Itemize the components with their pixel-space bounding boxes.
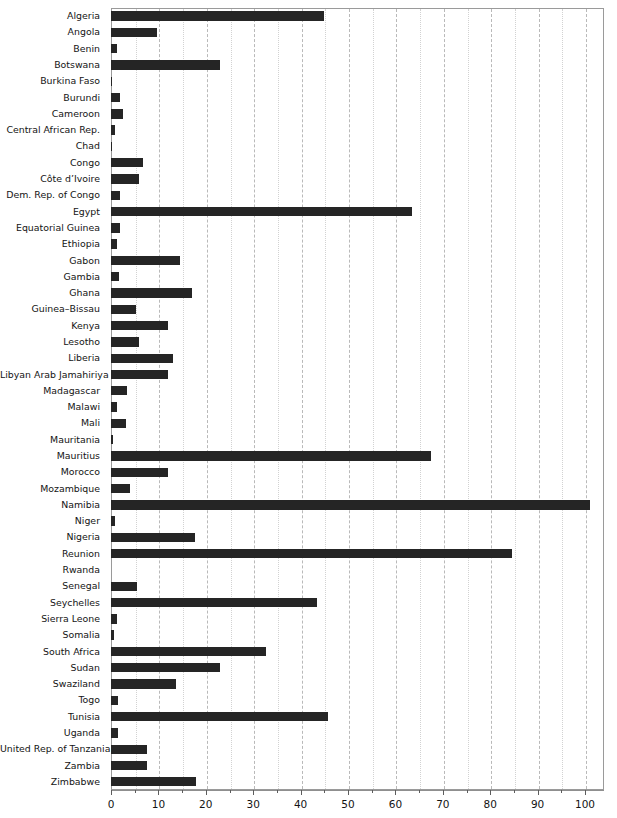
category-label: Seychelles — [0, 598, 105, 608]
bar — [111, 60, 220, 69]
category-label: Mozambique — [0, 484, 105, 494]
bar — [111, 419, 126, 428]
bar — [111, 630, 114, 639]
bar — [111, 191, 120, 200]
x-axis-line — [111, 790, 604, 791]
bar — [111, 77, 112, 86]
x-tick-label: 60 — [389, 798, 402, 810]
category-label: South Africa — [0, 647, 105, 657]
category-label: Gabon — [0, 256, 105, 266]
bar — [111, 28, 157, 37]
bar — [111, 500, 590, 509]
bar — [111, 647, 266, 656]
category-label: Botswana — [0, 60, 105, 70]
x-tick-minor — [277, 790, 278, 793]
category-label: Somalia — [0, 630, 105, 640]
x-tick-label: 20 — [199, 798, 212, 810]
x-tick-label: 100 — [575, 798, 595, 810]
category-label: Madagascar — [0, 386, 105, 396]
x-tick-major — [538, 790, 539, 795]
category-label: Senegal — [0, 581, 105, 591]
x-tick-major — [301, 790, 302, 795]
category-label: Guinea–Bissau — [0, 304, 105, 314]
x-tick-label: 0 — [108, 798, 115, 810]
category-label: Kenya — [0, 321, 105, 331]
x-tick-major — [490, 790, 491, 795]
category-label: Côte d’Ivoire — [0, 174, 105, 184]
bar — [111, 761, 147, 770]
category-label: Gambia — [0, 272, 105, 282]
category-label: Ghana — [0, 288, 105, 298]
bar — [111, 402, 117, 411]
category-label: Mauritania — [0, 435, 105, 445]
bar — [111, 239, 117, 248]
x-tick-minor — [324, 790, 325, 793]
category-label: Sierra Leone — [0, 614, 105, 624]
bar — [111, 777, 196, 786]
category-label: Central African Rep. — [0, 125, 105, 135]
category-label: Namibia — [0, 500, 105, 510]
x-tick-major — [206, 790, 207, 795]
bar — [111, 696, 118, 705]
category-label: Dem. Rep. of Congo — [0, 190, 105, 200]
bar — [111, 288, 192, 297]
category-label: Togo — [0, 695, 105, 705]
bar — [111, 125, 115, 134]
x-tick-label: 90 — [531, 798, 544, 810]
category-label: Malawi — [0, 402, 105, 412]
category-label: Uganda — [0, 728, 105, 738]
category-label: Zambia — [0, 761, 105, 771]
x-axis: 0102030405060708090100 — [111, 790, 604, 818]
category-label: Algeria — [0, 11, 105, 21]
bar — [111, 435, 113, 444]
category-label: Lesotho — [0, 337, 105, 347]
category-label: Niger — [0, 516, 105, 526]
bar — [111, 451, 431, 460]
category-label: Congo — [0, 158, 105, 168]
category-label: Angola — [0, 27, 105, 37]
bar — [111, 174, 139, 183]
bar — [111, 321, 168, 330]
bar — [111, 516, 115, 525]
category-label: Sudan — [0, 663, 105, 673]
category-label: Cameroon — [0, 109, 105, 119]
bar — [111, 582, 137, 591]
x-tick-label: 10 — [152, 798, 165, 810]
category-label: Benin — [0, 44, 105, 54]
category-label: Chad — [0, 141, 105, 151]
bar — [111, 354, 173, 363]
bar — [111, 484, 130, 493]
category-label: Zimbabwe — [0, 777, 105, 787]
category-label: Reunion — [0, 549, 105, 559]
bar — [111, 712, 328, 721]
bar — [111, 598, 317, 607]
x-tick-major — [111, 790, 112, 795]
x-tick-minor — [372, 790, 373, 793]
bar — [111, 11, 324, 20]
bar — [111, 337, 139, 346]
category-label: Nigeria — [0, 532, 105, 542]
bar — [111, 142, 112, 151]
x-tick-minor — [230, 790, 231, 793]
bar — [111, 386, 127, 395]
x-tick-major — [395, 790, 396, 795]
category-label: United Rep. of Tanzania — [0, 744, 105, 754]
x-tick-minor — [467, 790, 468, 793]
bar — [111, 679, 176, 688]
bar — [111, 256, 180, 265]
category-label: Rwanda — [0, 565, 105, 575]
category-label: Morocco — [0, 467, 105, 477]
x-tick-major — [253, 790, 254, 795]
bar — [111, 44, 117, 53]
bar — [111, 207, 412, 216]
bar — [111, 305, 136, 314]
x-tick-major — [443, 790, 444, 795]
category-label: Mali — [0, 418, 105, 428]
bar — [111, 272, 119, 281]
category-label: Ethiopia — [0, 239, 105, 249]
bar — [111, 745, 147, 754]
bar — [111, 614, 117, 623]
category-label: Mauritius — [0, 451, 105, 461]
category-label: Egypt — [0, 207, 105, 217]
bar — [111, 549, 512, 558]
